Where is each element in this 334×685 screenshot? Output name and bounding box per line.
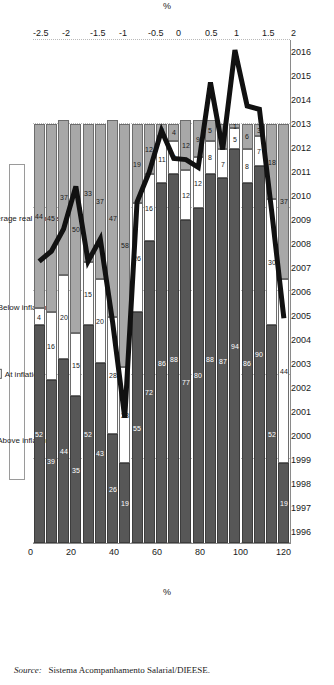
bar-value-label: 26 — [109, 485, 117, 492]
bar-segment-above: 55 — [132, 312, 143, 543]
bar-segment-above: 94 — [229, 149, 240, 543]
bar-value-label: 88 — [170, 355, 178, 362]
bar-value-label: 86 — [158, 359, 166, 366]
bar-group-2002: 262847 — [107, 40, 118, 543]
primary-tick: 120 — [276, 547, 291, 557]
category-label: 2016 — [291, 47, 311, 57]
bar-value-label: 20 — [96, 317, 104, 324]
bar-group-2000: 521533 — [83, 40, 94, 543]
bar-group-2016: 194437 — [278, 40, 289, 543]
plot-frame: 5244439164544203735155052153343203726284… — [33, 40, 291, 544]
bar-segment-at: 16 — [46, 312, 57, 379]
bar-value-label: 88 — [207, 355, 215, 362]
bar-value-label: 12 — [194, 179, 202, 186]
stacked-bar-chart: Above inflationAt inflationBelow inflati… — [7, 0, 327, 600]
rotated-chart-wrapper: Above inflationAt inflationBelow inflati… — [0, 0, 334, 600]
category-label: 2014 — [291, 95, 311, 105]
primary-tick: 20 — [66, 547, 76, 557]
category-label: 1996 — [291, 527, 311, 537]
bar-segment-at: 7 — [254, 136, 265, 165]
bar-group-2003: 192358 — [119, 40, 130, 543]
category-label: 2003 — [291, 359, 311, 369]
bar-group-2015: 523018 — [266, 40, 277, 543]
bar-segment-above: 52 — [266, 325, 277, 543]
category-label: 2009 — [291, 215, 311, 225]
bar-segment-at: 7 — [217, 149, 228, 178]
category-label: 2005 — [291, 311, 311, 321]
bar-segment-below: 1 — [229, 124, 240, 128]
bar-segment-below: 44 — [34, 124, 45, 308]
bar-group-1997: 391645 — [46, 40, 57, 543]
bar-segment-at: 20 — [58, 275, 69, 359]
bar-segment-at: 8 — [205, 141, 216, 175]
bar-value-label: 80 — [194, 372, 202, 379]
primary-tick: 40 — [109, 547, 119, 557]
bar-value-label: 28 — [109, 372, 117, 379]
bar-group-2014: 9073 — [254, 40, 265, 543]
bar-value-label: 12 — [145, 146, 153, 153]
bar-value-label: 11 — [158, 156, 165, 163]
secondary-tick: 1.5 — [262, 28, 275, 38]
bar-value-label: 86 — [243, 359, 251, 366]
bar-value-label: 23 — [121, 412, 129, 419]
bar-value-label: 30 — [268, 259, 276, 266]
primary-tick: 60 — [152, 547, 162, 557]
bar-segment-above: 52 — [34, 325, 45, 543]
bar-segment-at: 12 — [180, 170, 191, 220]
bar-value-label: 12 — [182, 141, 190, 148]
category-axis: 1996199719981999200020012002200320042005… — [293, 40, 327, 544]
category-label: 2007 — [291, 263, 311, 273]
bar-segment-above: 77 — [180, 220, 191, 543]
figure-root: Above inflationAt inflationBelow inflati… — [0, 0, 334, 685]
bar-value-label: 72 — [145, 389, 153, 396]
category-label: 2000 — [291, 431, 311, 441]
bar-group-2001: 432037 — [95, 40, 106, 543]
bar-value-label: 15 — [84, 290, 92, 297]
bar-value-label: 90 — [255, 351, 263, 358]
bar-value-label: 19 — [121, 500, 129, 507]
secondary-tick: -0.5 — [148, 28, 164, 38]
bar-value-label: 6 — [221, 133, 225, 140]
category-label: 2010 — [291, 191, 311, 201]
primary-tick: 100 — [233, 547, 248, 557]
bar-group-2008: 771212 — [180, 40, 191, 543]
bar-segment-below: 19 — [132, 124, 143, 204]
bar-series-group: 5244439164544203735155052153343203726284… — [33, 40, 290, 543]
secondary-tick: -1 — [119, 28, 127, 38]
bar-value-label: 12 — [182, 192, 190, 199]
bar-value-label: 5 — [233, 135, 237, 142]
bar-segment-at: 15 — [70, 333, 81, 396]
bar-segment-below: 18 — [266, 124, 277, 199]
bar-value-label: 15 — [72, 361, 80, 368]
bar-group-1998: 442037 — [58, 40, 69, 543]
category-label: 1997 — [291, 503, 311, 513]
bar-group-2004: 552619 — [132, 40, 143, 543]
category-label: 2011 — [291, 167, 310, 177]
category-label: 2001 — [291, 407, 311, 417]
bar-value-label: 94 — [231, 343, 239, 350]
bar-value-label: 3 — [160, 127, 164, 134]
bar-group-2013: 8686 — [242, 40, 253, 543]
bar-segment-below: 37 — [58, 120, 69, 275]
bar-value-label: 8 — [245, 162, 249, 169]
bar-value-label: 33 — [84, 190, 92, 197]
bar-segment-above: 72 — [144, 241, 155, 543]
bar-segment-at: 8 — [242, 149, 253, 183]
bar-segment-above: 44 — [58, 359, 69, 543]
category-label: 2013 — [291, 119, 311, 129]
bar-value-label: 52 — [84, 431, 92, 438]
bar-value-label: 4 — [172, 129, 176, 136]
secondary-axis-title: % — [163, 1, 171, 11]
bar-value-label: 52 — [268, 431, 276, 438]
bar-segment-below: 9 — [193, 120, 204, 158]
bar-segment-below: 50 — [70, 124, 81, 334]
bar-segment-at: 44 — [278, 279, 289, 463]
bar-value-label: 37 — [96, 198, 104, 205]
bar-group-2005: 721612 — [144, 40, 155, 543]
bar-segment-above: 19 — [278, 463, 289, 543]
bar-value-label: 9 — [196, 135, 200, 142]
bar-value-label: 7 — [257, 148, 261, 155]
category-label: 1998 — [291, 479, 311, 489]
secondary-tick: 1 — [234, 28, 239, 38]
primary-tick: 0 — [28, 547, 33, 557]
